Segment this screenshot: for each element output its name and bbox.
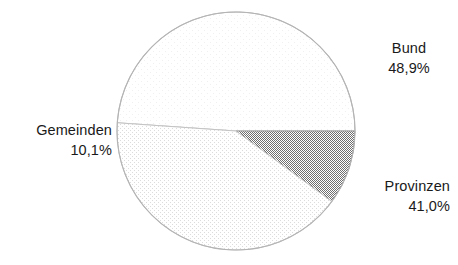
pie-label-bund: Bund 48,9% xyxy=(372,38,446,78)
pie-chart: Bund 48,9% Gemeinden 10,1% Provinzen 41,… xyxy=(0,0,458,265)
pie-label-provinzen-name: Provinzen xyxy=(362,176,450,196)
pie-label-bund-value: 48,9% xyxy=(372,58,446,78)
pie-label-provinzen-value: 41,0% xyxy=(362,196,450,216)
pie-slice-bund xyxy=(117,12,355,131)
pie-label-gemeinden-value: 10,1% xyxy=(18,140,112,160)
pie-label-gemeinden: Gemeinden 10,1% xyxy=(18,120,112,160)
pie-label-bund-name: Bund xyxy=(372,38,446,58)
pie-label-gemeinden-name: Gemeinden xyxy=(18,120,112,140)
pie-label-provinzen: Provinzen 41,0% xyxy=(362,176,450,216)
